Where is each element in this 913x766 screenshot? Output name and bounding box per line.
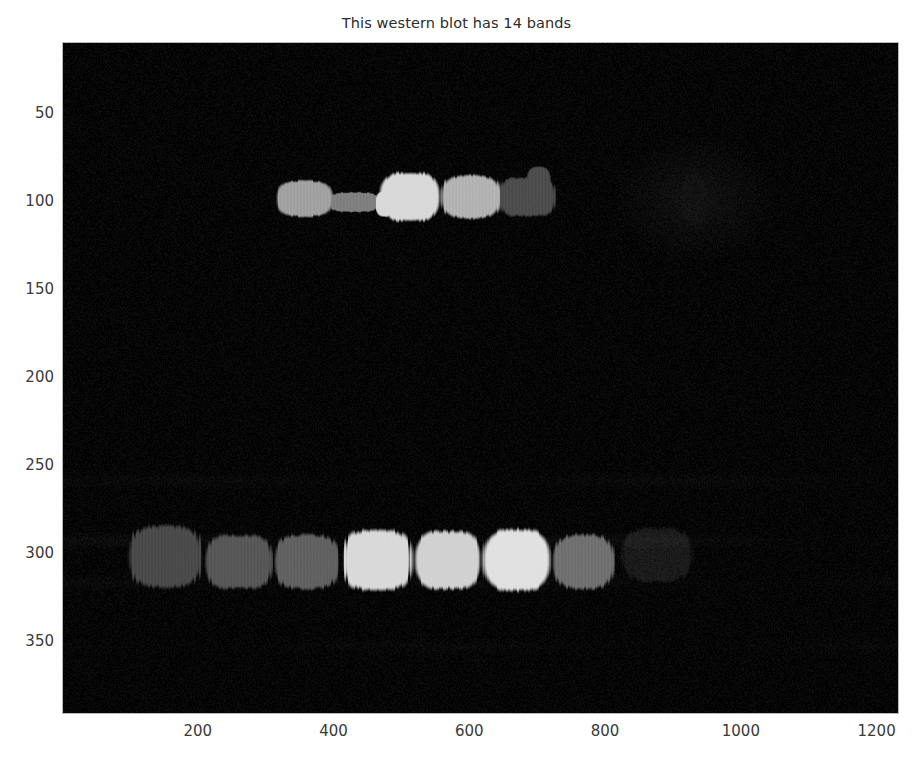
blot-image — [63, 43, 898, 713]
page-title: This western blot has 14 bands — [0, 15, 913, 31]
western-blot-figure: This western blot has 14 bands 501001502… — [0, 0, 913, 766]
x-tick-label: 400 — [299, 722, 369, 740]
y-tick-label: 150 — [2, 280, 54, 298]
x-tick-label: 800 — [570, 722, 640, 740]
y-tick-label: 250 — [2, 456, 54, 474]
y-tick-label: 350 — [2, 632, 54, 650]
plot-area — [62, 42, 899, 714]
x-tick-label: 1200 — [842, 722, 912, 740]
y-axis-tick-labels: 50100150200250300350 — [0, 0, 54, 766]
x-tick-label: 1000 — [706, 722, 776, 740]
x-axis-tick-labels: 20040060080010001200 — [0, 722, 913, 752]
y-tick-label: 50 — [2, 104, 54, 122]
y-tick-label: 200 — [2, 368, 54, 386]
y-tick-label: 300 — [2, 544, 54, 562]
x-tick-label: 600 — [434, 722, 504, 740]
y-tick-label: 100 — [2, 192, 54, 210]
x-tick-label: 200 — [163, 722, 233, 740]
